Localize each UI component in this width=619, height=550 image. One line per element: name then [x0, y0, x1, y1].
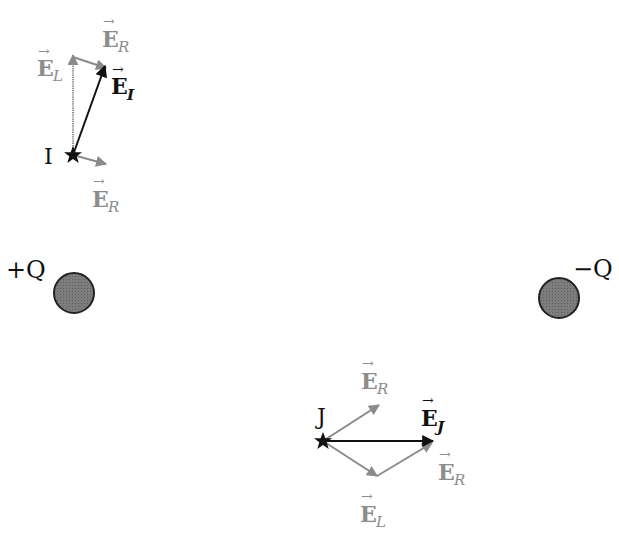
svg-text:E: E	[102, 26, 119, 52]
positive-charge-label: +Q	[6, 256, 46, 284]
svg-text:L: L	[375, 513, 386, 531]
label-I-EL: E L →	[37, 43, 63, 85]
electric-field-diagram: +Q −Q I J E L → E R → E I → E R → E R →	[0, 0, 619, 550]
point-J-label: J	[315, 404, 326, 429]
point-I-label: I	[44, 144, 53, 169]
svg-text:→: →	[103, 13, 115, 29]
svg-text:R: R	[117, 38, 129, 56]
svg-text:→: →	[361, 488, 373, 504]
svg-text:E: E	[421, 405, 438, 431]
label-I-EI: E I →	[111, 61, 135, 104]
vector-I-ER-top	[73, 57, 106, 68]
vector-J-ER-bottom	[377, 443, 432, 476]
svg-text:→: →	[422, 392, 434, 408]
vector-J-ER-top	[323, 405, 379, 441]
svg-text:R: R	[453, 471, 465, 489]
vector-I-ER-bottom	[73, 155, 106, 164]
svg-text:E: E	[438, 459, 455, 485]
svg-text:→: →	[362, 355, 374, 371]
vector-J-EL	[323, 441, 377, 476]
label-J-ER-top: E R →	[361, 355, 388, 398]
negative-charge	[539, 278, 579, 318]
svg-text:R: R	[376, 380, 388, 398]
svg-text:→: →	[38, 43, 50, 59]
vector-I-EI	[73, 66, 105, 155]
svg-text:E: E	[361, 368, 378, 394]
svg-text:L: L	[52, 67, 63, 85]
svg-text:→: →	[93, 173, 105, 189]
positive-charge	[54, 273, 94, 313]
label-J-EL: E L →	[360, 488, 386, 531]
svg-text:I: I	[126, 86, 135, 104]
label-J-ER-bottom: E R →	[438, 446, 465, 489]
svg-text:→: →	[439, 446, 451, 462]
label-I-ER-bottom: E R →	[92, 173, 119, 216]
negative-charge-label: −Q	[573, 255, 613, 283]
svg-text:→: →	[112, 61, 124, 77]
label-J-EJ: E J →	[421, 392, 445, 436]
point-I-star-icon	[64, 146, 82, 163]
svg-text:E: E	[360, 501, 377, 527]
svg-text:E: E	[92, 186, 109, 212]
svg-text:R: R	[107, 198, 119, 216]
label-I-ER-top: E R →	[102, 13, 129, 56]
